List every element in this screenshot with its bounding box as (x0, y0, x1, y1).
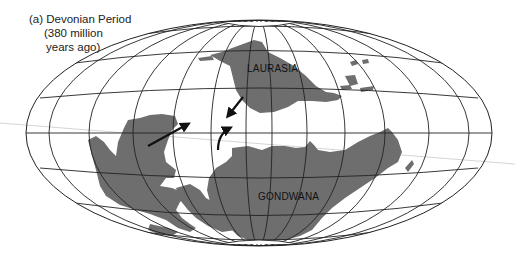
figure-caption: (a) Devonian Period (380 million years a… (29, 12, 131, 54)
caption-line-2: (380 million (29, 26, 131, 40)
laurasia-label: LAURASIA (247, 63, 298, 74)
arrow-southwest (228, 97, 243, 116)
caption-line-3: years ago) (29, 40, 131, 54)
gondwana-label: GONDWANA (258, 191, 319, 202)
caption-line-1: (a) Devonian Period (29, 12, 131, 26)
arrow-curved-north (218, 128, 230, 150)
